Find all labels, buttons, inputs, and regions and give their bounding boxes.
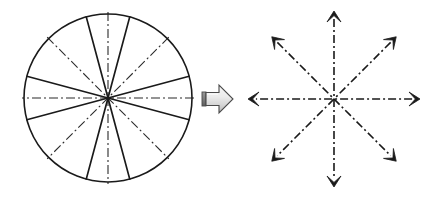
arrow-tail-cap	[202, 92, 206, 106]
symmetry-diagram-svg	[0, 0, 435, 197]
figure-root	[0, 0, 435, 197]
